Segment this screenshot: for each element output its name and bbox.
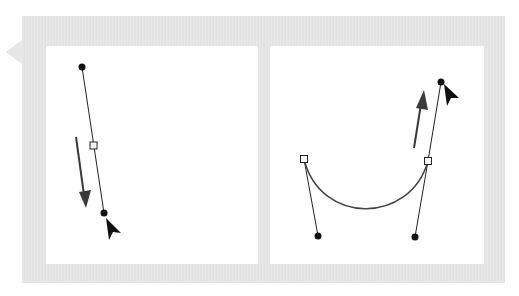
arrow-cursor-icon bbox=[444, 84, 459, 106]
drag-arrow-up-icon bbox=[414, 90, 428, 148]
anchor-point-right[interactable] bbox=[425, 158, 432, 165]
right-panel-graphic bbox=[301, 79, 460, 241]
direction-line-right-lower bbox=[415, 161, 428, 237]
arrow-cursor-icon bbox=[106, 218, 121, 240]
anchor-point[interactable] bbox=[90, 142, 97, 149]
direction-point-bottom[interactable] bbox=[101, 210, 108, 217]
diagram-svg bbox=[0, 0, 519, 296]
direction-point-top[interactable] bbox=[79, 64, 86, 71]
direction-line-right-upper bbox=[428, 82, 441, 161]
left-panel-graphic bbox=[76, 64, 121, 241]
direction-point-top-right[interactable] bbox=[438, 79, 445, 86]
anchor-point-left[interactable] bbox=[301, 156, 308, 163]
bezier-curve bbox=[304, 159, 428, 209]
direction-point-bottom-left[interactable] bbox=[315, 233, 322, 240]
direction-line-left bbox=[304, 159, 318, 236]
drag-arrow-down-icon bbox=[76, 137, 91, 208]
direction-point-bottom-right[interactable] bbox=[412, 234, 419, 241]
